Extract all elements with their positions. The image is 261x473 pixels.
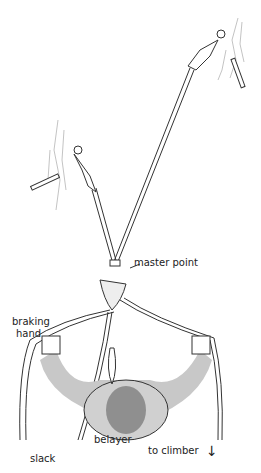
anchor-legs xyxy=(92,68,194,264)
anchor-device-right xyxy=(188,40,218,70)
tie-in-knot xyxy=(108,348,115,384)
label-slack: slack xyxy=(30,453,55,464)
label-braking-line1: braking xyxy=(12,316,50,327)
right-hand xyxy=(192,336,210,354)
anchor-device-left xyxy=(74,154,96,192)
rock-left xyxy=(48,120,66,210)
label-master-point: master point xyxy=(134,257,198,268)
down-arrow-icon: ↓ xyxy=(206,446,218,457)
belay-device xyxy=(100,280,126,310)
belay-diagram: master point braking hand belayer slack … xyxy=(0,0,261,473)
label-to-climber: to climber xyxy=(148,445,199,456)
bolt-right xyxy=(217,30,245,88)
diagram-illustration xyxy=(0,0,261,473)
master-point-knot xyxy=(110,260,120,266)
bolt-left xyxy=(31,146,82,190)
belayer-head xyxy=(106,386,146,434)
rock-right xyxy=(218,18,244,80)
left-hand xyxy=(42,336,60,354)
label-belayer: belayer xyxy=(94,434,132,445)
label-braking-line2: hand xyxy=(16,328,41,339)
